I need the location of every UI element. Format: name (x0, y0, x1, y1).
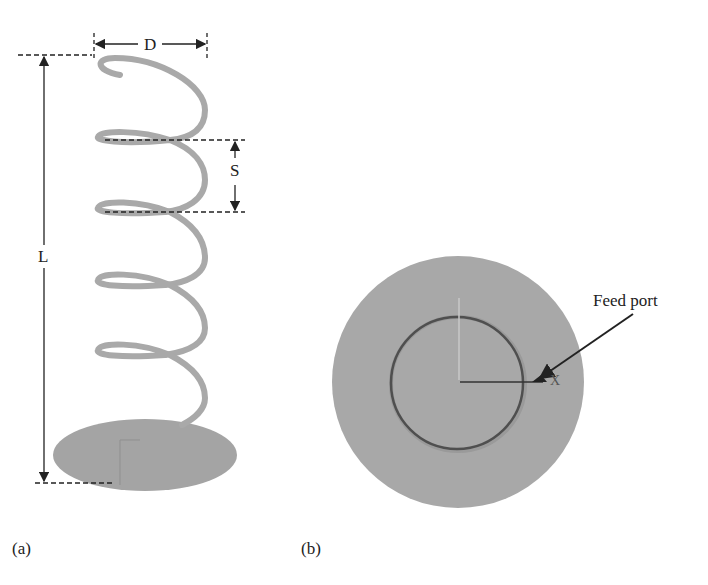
caption-b: (b) (301, 540, 321, 557)
feed-port-label: Feed port (593, 292, 658, 309)
helix-coil (98, 58, 205, 425)
caption-a: (a) (12, 540, 31, 557)
label-s: S (230, 162, 239, 179)
ground-plane-top (332, 256, 584, 508)
ground-plane-side (53, 419, 237, 491)
label-d: D (144, 36, 156, 53)
axis-x-label: X (550, 374, 560, 388)
dimension-l (18, 55, 115, 483)
label-l: L (38, 248, 48, 265)
